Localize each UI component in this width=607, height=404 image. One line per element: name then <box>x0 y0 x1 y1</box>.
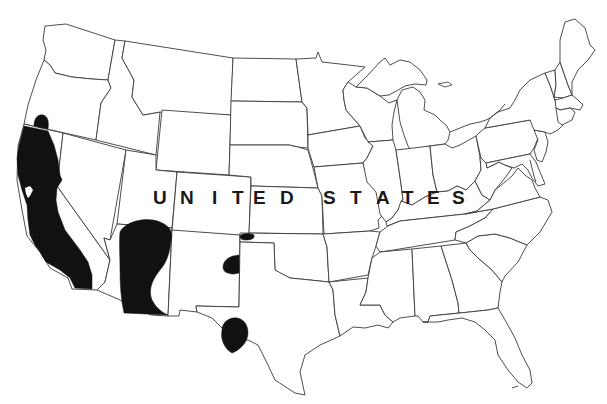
label-letter-t: T <box>232 187 244 208</box>
range-panhandle-patch <box>240 234 254 240</box>
state-north-dakota <box>231 58 302 102</box>
label-letter-u: U <box>153 187 167 208</box>
map-canvas: U N I T E D S T A T E S <box>0 0 607 404</box>
state-montana <box>122 41 233 115</box>
state-south-dakota <box>230 101 308 148</box>
label-letter-e: E <box>253 187 266 208</box>
state-wyoming <box>156 110 231 175</box>
lake-superior-isle <box>438 82 452 87</box>
label-letter-t3: T <box>402 187 414 208</box>
range-trans-pecos-patch <box>222 318 248 353</box>
label-letter-s2: S <box>452 187 465 208</box>
label-letter-n: N <box>180 187 194 208</box>
label-letter-e2: E <box>427 187 440 208</box>
state-florida <box>423 308 532 388</box>
us-range-map: U N I T E D S T A T E S <box>0 0 607 404</box>
state-new-jersey <box>534 130 548 162</box>
label-letter-a: A <box>376 187 390 208</box>
state-connecticut-rhode-island <box>556 108 575 125</box>
label-letter-d: D <box>280 187 294 208</box>
label-letter-s: S <box>323 187 336 208</box>
state-michigan-lower <box>397 87 450 150</box>
florida-keys <box>512 386 518 388</box>
label-letter-i: I <box>212 187 217 208</box>
label-letter-t2: T <box>350 187 362 208</box>
